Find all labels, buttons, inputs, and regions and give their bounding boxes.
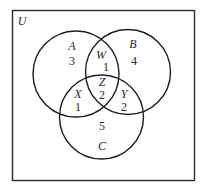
region-value-w: 1 (103, 61, 109, 73)
region-value-y: 2 (121, 101, 127, 113)
region-value-b: 4 (131, 55, 137, 67)
region-label-x: X (74, 88, 81, 100)
region-label-b: B (129, 38, 136, 50)
region-label-c: C (98, 140, 106, 152)
region-label-z: Z (99, 76, 106, 88)
region-value-c: 5 (99, 120, 105, 132)
region-label-a: A (68, 40, 75, 52)
region-value-x: 1 (75, 101, 81, 113)
region-value-z: 2 (99, 89, 105, 101)
universe-label: U (18, 15, 27, 27)
region-value-a: 3 (69, 55, 75, 67)
region-label-y: Y (121, 88, 128, 100)
